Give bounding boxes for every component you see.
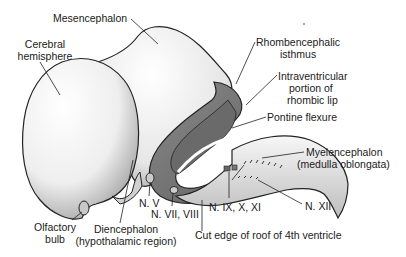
label-myelencephalon-2: (medulla oblongata) — [297, 158, 390, 170]
label-rhombencephalic-isthmus-1: Rhombencephalic — [256, 36, 340, 48]
label-diencephalon-2: (hypothalamic region) — [72, 235, 180, 247]
label-pontine-flexure: Pontine flexure — [267, 111, 337, 123]
n-v-nub — [146, 173, 154, 183]
label-n-vii-viii: N. VII, VIII — [151, 208, 199, 220]
label-cerebral-hemisphere-1: Cerebral — [15, 38, 75, 50]
label-n-ix-x-xi: N. IX, X, XI — [209, 201, 261, 213]
label-intraventricular-3: rhombic lip — [287, 94, 338, 106]
label-cerebral-hemisphere-2: hemisphere — [15, 50, 75, 62]
label-cut-edge: Cut edge of roof of 4th ventricle — [195, 229, 342, 241]
cerebral-hemisphere-shape — [23, 59, 139, 219]
label-mesencephalon: Mesencephalon — [53, 12, 127, 24]
n-vii-viii-nub — [170, 187, 178, 194]
label-intraventricular-2: portion of — [289, 82, 333, 94]
label-n-xii: N. XII — [305, 200, 331, 212]
label-rhombencephalic-isthmus-2: isthmus — [280, 48, 316, 60]
label-myelencephalon-1: Myelencephalon — [306, 146, 382, 158]
label-intraventricular-1: Intraventricular — [278, 70, 347, 82]
brain-diagram: Mesencephalon Cerebral hemisphere Rhombe… — [0, 0, 406, 257]
label-diencephalon-1: Diencephalon — [72, 223, 180, 235]
